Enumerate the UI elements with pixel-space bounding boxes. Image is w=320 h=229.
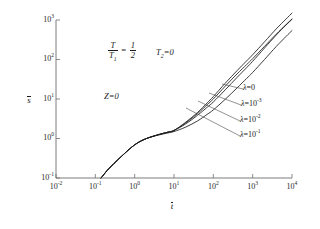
x-tick-label-4: 102 [202,183,224,191]
x-tick-mantissa: 10 [169,182,177,191]
temperature-ratio-annotation: T T1 = 1 2 [108,41,136,60]
y-tick-exponent: -1 [49,171,54,177]
lambda-exponent: -3 [257,97,262,103]
x-axis-title-text: t [171,202,174,211]
y-tick-exponent: 1 [51,92,54,98]
x-tick-exponent: 4 [295,180,298,186]
x-tick-exponent: -1 [97,180,102,186]
x-tick-mantissa: 10 [50,182,58,191]
t2-condition-annotation: T2=0 [156,48,174,57]
x-tick-label-5: 103 [242,183,264,191]
y-tick-mantissa: 10 [43,15,51,24]
lambda-equals-value: =0 [246,83,255,92]
x-tick-mantissa: 10 [287,182,295,191]
series-label-lambda-0: λ=0 [243,84,255,92]
y-axis-title-text: s [27,96,31,105]
x-tick-label-2: 100 [124,183,146,191]
y-tick-mantissa: 10 [43,133,51,142]
y-tick-exponent: 2 [51,52,54,58]
lambda-equals-value: =10 [243,130,256,139]
y-tick-mantissa: 10 [43,54,51,63]
series-label-lambda-1e-3: λ=10-3 [241,100,262,108]
temperature-ratio-value: 1 2 [130,41,136,60]
temperature-ratio-fraction: T T1 [108,41,118,60]
z-condition-text: Z=0 [104,91,119,101]
y-tick-label-4: 103 [32,16,54,24]
x-tick-label-0: 10-2 [45,183,67,191]
x-tick-exponent: 2 [216,180,219,186]
annotation-leader-lines [186,84,243,136]
x-tick-label-1: 10-1 [84,183,106,191]
y-tick-marks [56,20,60,178]
lambda-exponent: -1 [256,128,261,134]
x-tick-exponent: 3 [255,180,258,186]
y-tick-label-3: 102 [32,55,54,63]
y-tick-exponent: 3 [51,13,54,19]
lambda-equals-value: =10 [243,115,256,124]
y-tick-mantissa: 10 [43,94,51,103]
figure-panel: 10-1100101102103 10-210-1100101102103104… [0,0,320,229]
x-axis-title: t [166,202,178,211]
y-tick-exponent: 0 [51,131,54,137]
series-label-lambda-1e-2: λ=10-2 [240,116,261,124]
lambda-equals-value: =10 [244,99,257,108]
curve-lambda-0 [101,13,292,178]
temperature-ratio-denominator: T1 [108,51,118,60]
y-tick-label-0: 10-1 [32,174,54,182]
x-tick-exponent: 1 [177,180,180,186]
temperature-ratio-value-denominator: 2 [130,51,136,60]
lambda-exponent: -2 [256,113,261,119]
y-axis-title: s [22,96,36,105]
chart-canvas [0,0,320,229]
x-tick-label-6: 104 [281,183,303,191]
y-tick-label-1: 100 [32,134,54,142]
x-tick-label-3: 101 [163,183,185,191]
data-curves [101,13,292,178]
x-tick-exponent: -2 [58,180,63,186]
leader-lambda-1e-1 [186,108,240,136]
temperature-ratio-equals: = [120,46,128,55]
x-tick-marks [56,174,292,178]
x-tick-exponent: 0 [137,180,140,186]
series-label-lambda-1e-1: λ=10-1 [240,131,261,139]
t2-rest: =0 [164,47,174,57]
x-tick-mantissa: 10 [89,182,97,191]
leader-lambda-1e-2 [198,101,240,121]
z-condition-annotation: Z=0 [104,92,119,101]
x-tick-mantissa: 10 [208,182,216,191]
